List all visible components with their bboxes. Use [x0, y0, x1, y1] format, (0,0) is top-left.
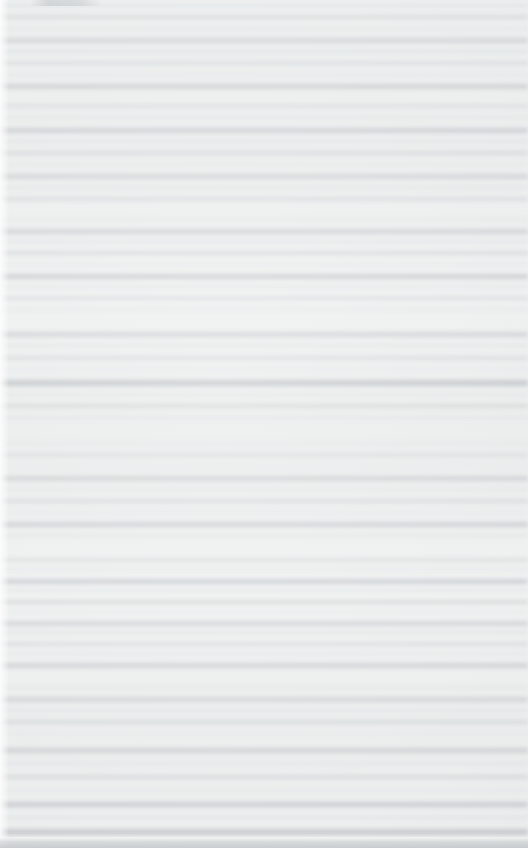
document-viewport[interactable] [0, 0, 528, 848]
page-sheet [0, 0, 528, 848]
